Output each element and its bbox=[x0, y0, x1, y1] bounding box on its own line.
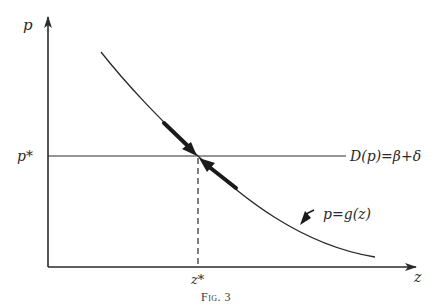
y-axis-label: p bbox=[23, 16, 33, 34]
x-axis-label: z bbox=[413, 269, 422, 285]
arrow-lower-icon bbox=[199, 158, 236, 188]
figure-caption: Fig. 3 bbox=[201, 290, 231, 304]
figure-canvas: p p* D(p)=β+δ p=g(z) z* z Fig. 3 bbox=[0, 0, 441, 306]
horizontal-line-label: D(p)=β+δ bbox=[349, 148, 421, 164]
arrow-upper-icon bbox=[164, 123, 197, 156]
p-star-label: p* bbox=[17, 148, 33, 164]
curve-label: p=g(z) bbox=[323, 206, 371, 222]
label-pointer-icon bbox=[300, 210, 314, 225]
z-star-label: z* bbox=[190, 272, 205, 287]
curve-g bbox=[101, 52, 375, 257]
